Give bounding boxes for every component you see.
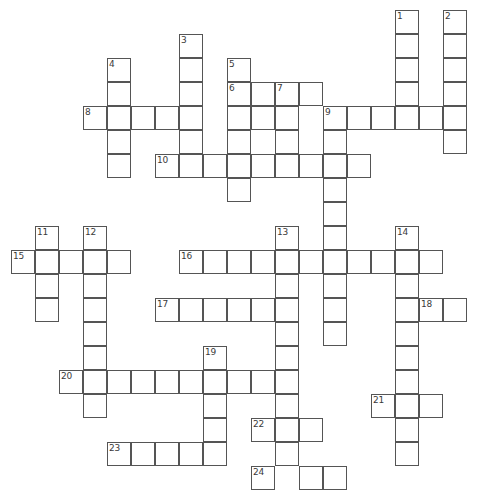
crossword-cell[interactable] — [35, 298, 59, 322]
crossword-cell[interactable] — [179, 370, 203, 394]
crossword-cell[interactable] — [203, 154, 227, 178]
crossword-cell[interactable] — [347, 154, 371, 178]
crossword-cell[interactable] — [395, 34, 419, 58]
crossword-cell[interactable] — [443, 298, 467, 322]
crossword-cell[interactable] — [323, 178, 347, 202]
crossword-cell-numbered-10[interactable]: 10 — [155, 154, 179, 178]
crossword-cell-numbered-24[interactable]: 24 — [251, 466, 275, 490]
crossword-cell-numbered-4[interactable]: 4 — [107, 58, 131, 82]
crossword-cell[interactable] — [83, 298, 107, 322]
crossword-cell[interactable] — [227, 298, 251, 322]
crossword-cell[interactable] — [107, 106, 131, 130]
crossword-cell[interactable] — [299, 82, 323, 106]
crossword-cell[interactable] — [443, 58, 467, 82]
crossword-cell[interactable] — [131, 370, 155, 394]
crossword-cell-numbered-12[interactable]: 12 — [83, 226, 107, 250]
crossword-cell[interactable] — [395, 82, 419, 106]
crossword-cell[interactable] — [107, 250, 131, 274]
crossword-cell[interactable] — [395, 370, 419, 394]
crossword-cell[interactable] — [83, 322, 107, 346]
crossword-cell[interactable] — [443, 34, 467, 58]
crossword-cell[interactable] — [395, 58, 419, 82]
crossword-cell-numbered-6[interactable]: 6 — [227, 82, 251, 106]
crossword-cell[interactable] — [443, 130, 467, 154]
crossword-cell[interactable] — [347, 106, 371, 130]
crossword-cell[interactable] — [107, 154, 131, 178]
crossword-cell[interactable] — [155, 442, 179, 466]
crossword-cell[interactable] — [179, 58, 203, 82]
crossword-cell[interactable] — [275, 154, 299, 178]
crossword-grid[interactable]: 123456789101112131415161718192021222324 — [0, 0, 482, 499]
crossword-cell[interactable] — [179, 82, 203, 106]
crossword-cell-numbered-16[interactable]: 16 — [179, 250, 203, 274]
crossword-cell[interactable] — [203, 394, 227, 418]
crossword-cell[interactable] — [371, 106, 395, 130]
crossword-cell[interactable] — [227, 250, 251, 274]
crossword-cell[interactable] — [203, 370, 227, 394]
crossword-cell[interactable] — [275, 370, 299, 394]
crossword-cell-numbered-5[interactable]: 5 — [227, 58, 251, 82]
crossword-cell-numbered-18[interactable]: 18 — [419, 298, 443, 322]
crossword-cell[interactable] — [203, 250, 227, 274]
crossword-cell[interactable] — [227, 178, 251, 202]
crossword-cell[interactable] — [35, 274, 59, 298]
crossword-cell-numbered-3[interactable]: 3 — [179, 34, 203, 58]
crossword-cell-numbered-23[interactable]: 23 — [107, 442, 131, 466]
crossword-cell[interactable] — [179, 298, 203, 322]
crossword-cell[interactable] — [275, 106, 299, 130]
crossword-cell[interactable] — [275, 394, 299, 418]
crossword-cell[interactable] — [323, 322, 347, 346]
crossword-cell[interactable] — [251, 250, 275, 274]
crossword-cell[interactable] — [35, 250, 59, 274]
crossword-cell[interactable] — [251, 370, 275, 394]
crossword-cell-numbered-15[interactable]: 15 — [11, 250, 35, 274]
crossword-cell-numbered-2[interactable]: 2 — [443, 10, 467, 34]
crossword-cell[interactable] — [227, 154, 251, 178]
crossword-cell-numbered-20[interactable]: 20 — [59, 370, 83, 394]
crossword-cell[interactable] — [395, 394, 419, 418]
crossword-cell[interactable] — [275, 322, 299, 346]
crossword-cell[interactable] — [323, 226, 347, 250]
crossword-cell[interactable] — [275, 298, 299, 322]
crossword-cell[interactable] — [371, 250, 395, 274]
crossword-cell[interactable] — [131, 442, 155, 466]
crossword-cell[interactable] — [323, 202, 347, 226]
crossword-cell-numbered-22[interactable]: 22 — [251, 418, 275, 442]
crossword-cell[interactable] — [275, 442, 299, 466]
crossword-cell-numbered-11[interactable]: 11 — [35, 226, 59, 250]
crossword-cell[interactable] — [203, 418, 227, 442]
crossword-cell[interactable] — [179, 130, 203, 154]
crossword-cell[interactable] — [323, 130, 347, 154]
crossword-cell[interactable] — [83, 346, 107, 370]
crossword-cell[interactable] — [179, 154, 203, 178]
crossword-cell-numbered-21[interactable]: 21 — [371, 394, 395, 418]
crossword-cell[interactable] — [395, 298, 419, 322]
crossword-cell[interactable] — [419, 250, 443, 274]
crossword-cell[interactable] — [275, 418, 299, 442]
crossword-cell[interactable] — [275, 346, 299, 370]
crossword-cell[interactable] — [419, 106, 443, 130]
crossword-cell[interactable] — [251, 154, 275, 178]
crossword-cell[interactable] — [323, 466, 347, 490]
crossword-cell[interactable] — [395, 106, 419, 130]
crossword-cell-numbered-8[interactable]: 8 — [83, 106, 107, 130]
crossword-cell[interactable] — [275, 130, 299, 154]
crossword-cell[interactable] — [83, 250, 107, 274]
crossword-cell[interactable] — [203, 298, 227, 322]
crossword-cell[interactable] — [395, 322, 419, 346]
crossword-cell-numbered-17[interactable]: 17 — [155, 298, 179, 322]
crossword-cell[interactable] — [107, 130, 131, 154]
crossword-cell[interactable] — [275, 250, 299, 274]
crossword-cell[interactable] — [83, 370, 107, 394]
crossword-cell[interactable] — [107, 370, 131, 394]
crossword-cell-numbered-9[interactable]: 9 — [323, 106, 347, 130]
crossword-cell[interactable] — [227, 130, 251, 154]
crossword-cell[interactable] — [131, 106, 155, 130]
crossword-cell[interactable] — [347, 250, 371, 274]
crossword-cell[interactable] — [395, 442, 419, 466]
crossword-cell-numbered-7[interactable]: 7 — [275, 82, 299, 106]
crossword-cell[interactable] — [323, 298, 347, 322]
crossword-cell[interactable] — [227, 106, 251, 130]
crossword-cell[interactable] — [395, 418, 419, 442]
crossword-cell[interactable] — [323, 154, 347, 178]
